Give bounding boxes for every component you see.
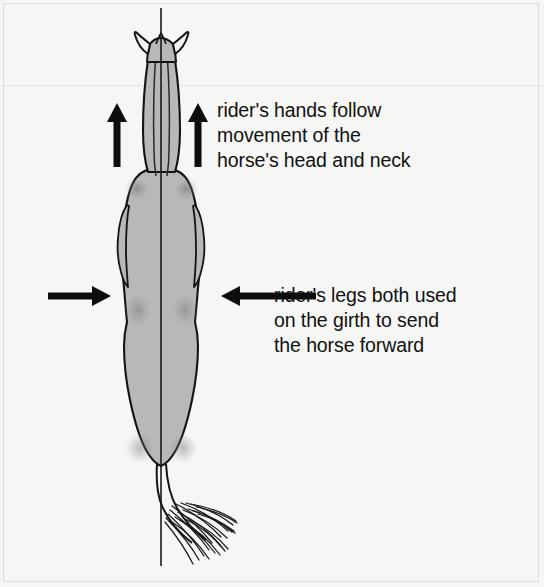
shading-right-shoulder bbox=[173, 177, 199, 201]
shading-right-flank bbox=[171, 292, 199, 328]
right-ear bbox=[173, 32, 188, 54]
shading-left-flank bbox=[124, 292, 152, 328]
arrow-up-left bbox=[107, 103, 127, 167]
arrow-up-right bbox=[188, 103, 208, 167]
annotation-riders-legs: rider's legs both used on the girth to s… bbox=[274, 283, 457, 358]
annotation-riders-hands: rider's hands follow movement of the hor… bbox=[217, 98, 411, 173]
shading-left-haunch bbox=[125, 432, 155, 464]
tail-dock-outer bbox=[166, 464, 206, 540]
left-ear bbox=[135, 32, 150, 54]
tail-hair bbox=[165, 503, 237, 564]
diagram-page: rider's hands follow movement of the hor… bbox=[0, 0, 544, 587]
shading-right-haunch bbox=[168, 432, 198, 464]
shading-left-shoulder bbox=[124, 177, 150, 201]
horse-rear-view-diagram bbox=[0, 0, 544, 587]
arrow-right-from-left bbox=[48, 286, 111, 306]
